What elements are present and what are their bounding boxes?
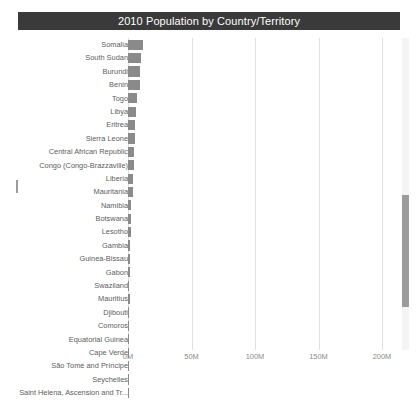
category-label: Swaziland bbox=[94, 279, 128, 292]
bar[interactable] bbox=[128, 307, 129, 317]
category-label: Seychelles bbox=[92, 373, 128, 386]
bar[interactable] bbox=[128, 227, 131, 237]
bar-container bbox=[128, 388, 129, 398]
bar-row[interactable]: Lesotho bbox=[18, 225, 400, 238]
bar-row[interactable]: Comoros bbox=[18, 319, 400, 332]
bar-row[interactable]: Namibia bbox=[18, 199, 400, 212]
bar-row[interactable]: Saint Helena, Ascension and Tr... bbox=[18, 386, 400, 399]
bar-row[interactable]: Djibouti bbox=[18, 306, 400, 319]
category-label: Saint Helena, Ascension and Tr... bbox=[19, 386, 128, 399]
bar-container bbox=[128, 80, 140, 90]
vertical-scrollbar[interactable] bbox=[402, 38, 409, 350]
bar[interactable] bbox=[128, 200, 131, 210]
bar-row[interactable]: Togo bbox=[18, 92, 400, 105]
bar[interactable] bbox=[128, 147, 134, 157]
bar-row[interactable]: Somalia bbox=[18, 38, 400, 51]
x-tick-label: 0M bbox=[123, 352, 133, 361]
bar-row[interactable]: Equatorial Guinea bbox=[18, 333, 400, 346]
bar[interactable] bbox=[128, 187, 133, 197]
bar-row[interactable]: Benin bbox=[18, 78, 400, 91]
bar-row[interactable]: Gambia bbox=[18, 239, 400, 252]
bar-row[interactable]: Sierra Leone bbox=[18, 132, 400, 145]
bar-rows: SomaliaSouth SudanBurundiBeninTogoLibyaE… bbox=[18, 38, 400, 400]
bar-row[interactable]: Seychelles bbox=[18, 373, 400, 386]
category-label: Togo bbox=[112, 92, 128, 105]
bar[interactable] bbox=[128, 254, 130, 264]
bar-row[interactable]: Congo (Congo-Brazzaville) bbox=[18, 159, 400, 172]
bar[interactable] bbox=[128, 294, 130, 304]
bar[interactable] bbox=[128, 120, 135, 130]
bar-container bbox=[128, 240, 130, 250]
x-tick-label: 100M bbox=[246, 352, 265, 361]
bar-container bbox=[128, 294, 130, 304]
bar[interactable] bbox=[128, 80, 140, 90]
category-label: Libya bbox=[110, 105, 128, 118]
bar[interactable] bbox=[128, 40, 143, 50]
bar[interactable] bbox=[128, 388, 129, 398]
bar-row[interactable]: Gabon bbox=[18, 266, 400, 279]
bar-row[interactable]: Guinea-Bissau bbox=[18, 252, 400, 265]
bar-row[interactable]: Eritrea bbox=[18, 118, 400, 131]
chart-title: 2010 Population by Country/Territory bbox=[18, 12, 400, 30]
vertical-scrollbar-thumb[interactable] bbox=[402, 195, 409, 307]
x-tick-label: 200M bbox=[373, 352, 392, 361]
bar-container bbox=[128, 214, 131, 224]
category-label: Djibouti bbox=[103, 306, 128, 319]
bar-container bbox=[128, 66, 140, 76]
bar[interactable] bbox=[128, 66, 140, 76]
bar[interactable] bbox=[128, 240, 130, 250]
bar[interactable] bbox=[128, 174, 133, 184]
bar-container bbox=[128, 267, 130, 277]
bar-row[interactable]: South Sudan bbox=[18, 51, 400, 64]
bar[interactable] bbox=[128, 374, 129, 384]
bar-container bbox=[128, 160, 134, 170]
category-label: Mauritania bbox=[93, 185, 128, 198]
x-axis: 0M50M100M150M200M bbox=[18, 352, 400, 366]
bar-row[interactable]: Liberia bbox=[18, 172, 400, 185]
bar-row[interactable]: Mauritania bbox=[18, 185, 400, 198]
bar-container bbox=[128, 187, 133, 197]
left-edge-marker bbox=[16, 180, 18, 193]
bar[interactable] bbox=[128, 133, 135, 143]
category-label: Comoros bbox=[98, 319, 128, 332]
bar-container bbox=[128, 93, 137, 103]
category-label: Sierra Leone bbox=[86, 132, 128, 145]
bar-row[interactable]: Botswana bbox=[18, 212, 400, 225]
bar[interactable] bbox=[128, 107, 136, 117]
bar-container bbox=[128, 374, 129, 384]
bar-row[interactable]: Central African Republic bbox=[18, 145, 400, 158]
category-label: Namibia bbox=[101, 199, 128, 212]
bar-row[interactable]: Mauritius bbox=[18, 292, 400, 305]
bar[interactable] bbox=[128, 281, 129, 291]
category-label: Benin bbox=[109, 78, 128, 91]
category-label: Burundi bbox=[103, 65, 128, 78]
category-label: Eritrea bbox=[106, 118, 128, 131]
bar[interactable] bbox=[128, 334, 129, 344]
category-label: Guinea-Bissau bbox=[80, 252, 128, 265]
bar-container bbox=[128, 40, 143, 50]
category-label: Gabon bbox=[106, 266, 128, 279]
category-label: Gambia bbox=[102, 239, 128, 252]
bar-container bbox=[128, 281, 129, 291]
bar[interactable] bbox=[128, 321, 129, 331]
bar-container bbox=[128, 307, 129, 317]
x-tick-label: 150M bbox=[309, 352, 328, 361]
bar-container bbox=[128, 120, 135, 130]
bar-container bbox=[128, 174, 133, 184]
bar-container bbox=[128, 133, 135, 143]
x-tick-label: 50M bbox=[184, 352, 198, 361]
bar[interactable] bbox=[128, 267, 130, 277]
bar-row[interactable]: Libya bbox=[18, 105, 400, 118]
bar-row[interactable]: Burundi bbox=[18, 65, 400, 78]
bar[interactable] bbox=[128, 160, 134, 170]
bar[interactable] bbox=[128, 53, 141, 63]
bar[interactable] bbox=[128, 93, 137, 103]
bar-row[interactable]: Swaziland bbox=[18, 279, 400, 292]
bar-container bbox=[128, 227, 131, 237]
bar-container bbox=[128, 321, 129, 331]
category-label: Central African Republic bbox=[49, 145, 128, 158]
bar-container bbox=[128, 147, 134, 157]
bar[interactable] bbox=[128, 214, 131, 224]
bar-container bbox=[128, 254, 130, 264]
